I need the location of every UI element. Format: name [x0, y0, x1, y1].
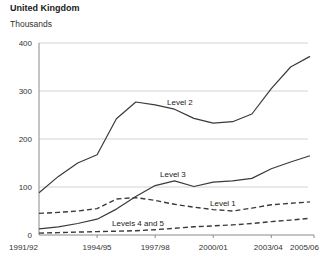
- y-tick-label: 300: [19, 87, 33, 96]
- series-line-levels-4-and-5: [39, 218, 310, 233]
- x-tick-label: 1997/98: [141, 243, 170, 252]
- x-tick-label: 1991/92: [9, 243, 38, 252]
- y-tick-label: 100: [19, 183, 33, 192]
- series-label-level-1: Level 1: [210, 199, 236, 208]
- y-tick-label: 0: [28, 231, 33, 240]
- x-tick-label: 2003/04: [254, 243, 283, 252]
- series-label-level-2: Level 2: [167, 98, 193, 107]
- series-line-level-1: [39, 198, 310, 214]
- x-tick-label: 1994/95: [83, 243, 112, 252]
- y-tick-label: 400: [19, 39, 33, 48]
- series-label-level-3: Level 3: [160, 170, 186, 179]
- chart-page: United Kingdom Thousands 010020030040019…: [0, 0, 321, 265]
- line-chart: 01002003004001991/921994/951997/982000/0…: [0, 0, 321, 265]
- x-tick-label: 2005/06: [290, 243, 319, 252]
- series-label-levels-4-and-5: Levels 4 and 5: [112, 219, 165, 228]
- y-tick-label: 200: [19, 135, 33, 144]
- x-tick-label: 2000/01: [199, 243, 228, 252]
- series-line-level-3: [39, 156, 310, 229]
